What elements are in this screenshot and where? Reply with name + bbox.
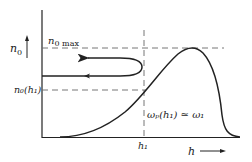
wave-path-loop bbox=[42, 58, 142, 76]
h1-label: h₁ bbox=[138, 140, 148, 151]
x-axis-arrow-icon bbox=[200, 149, 226, 153]
n0-max-label: n0 max bbox=[48, 35, 79, 48]
y-axis-arrow-icon bbox=[25, 35, 29, 58]
density-profile-curve bbox=[60, 48, 240, 137]
n0-h1-label: n₀(h₁) bbox=[14, 84, 42, 95]
density-profile-diagram: n0 n0 max n₀(h₁) h₁ ωₚ(h₁) ≃ ω₁ h bbox=[0, 0, 252, 162]
resonance-condition-label: ωₚ(h₁) ≃ ω₁ bbox=[147, 109, 204, 120]
x-axis-label: h bbox=[188, 145, 195, 158]
y-axis-label: n0 bbox=[10, 42, 22, 57]
